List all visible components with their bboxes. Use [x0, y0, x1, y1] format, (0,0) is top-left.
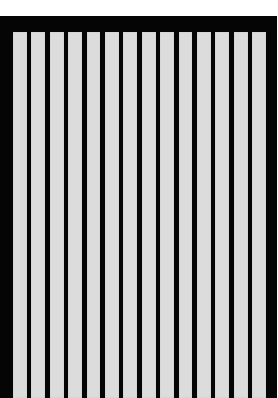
black-frame [0, 16, 277, 398]
stripe [68, 32, 82, 398]
stripe [105, 32, 119, 398]
stripe [160, 32, 174, 398]
stripe-grid [13, 32, 266, 398]
stripe [87, 32, 101, 398]
stripe [215, 32, 229, 398]
stripe [13, 32, 27, 398]
stripe [123, 32, 137, 398]
stripe [142, 32, 156, 398]
stripe [179, 32, 193, 398]
stripe [197, 32, 211, 398]
stripe [234, 32, 248, 398]
stripe [252, 32, 266, 398]
stripe [50, 32, 64, 398]
stripe [31, 32, 45, 398]
